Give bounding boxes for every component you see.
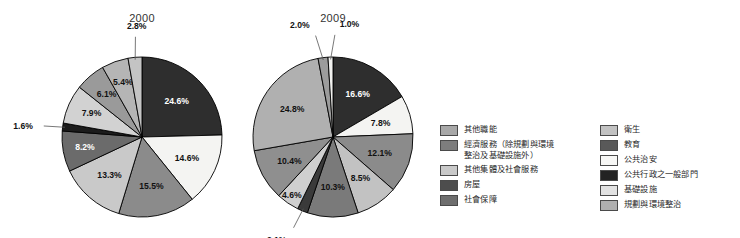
label-leader-line xyxy=(316,36,324,60)
legend-item-label: 教育 xyxy=(624,139,640,150)
legend-swatch-icon xyxy=(600,185,618,196)
legend-swatch-icon xyxy=(440,180,458,191)
legend-swatch-icon xyxy=(600,125,618,136)
pie-chart-2000: 24.6%14.6%15.5%13.3%8.2%1.6%7.9%6.1%5.4%… xyxy=(42,37,242,237)
legend-item[interactable]: 經濟服務（除規劃與環境 整治及基礎設施外） xyxy=(440,139,590,161)
legend-swatch-icon xyxy=(440,125,458,136)
legend-item-label: 基礎設施 xyxy=(624,184,657,195)
pie-slice-value-label: 14.6% xyxy=(175,153,200,163)
pie-slice-value-label: 6.1% xyxy=(97,89,117,99)
legend-swatch-icon xyxy=(600,140,618,151)
pie-slice-value-label: 24.8% xyxy=(280,104,305,114)
pie-slice-value-label: 15.5% xyxy=(139,181,164,191)
legend-item-label: 經濟服務（除規劃與環境 整治及基礎設施外） xyxy=(464,139,554,161)
pie-slice-value-label: 2.0% xyxy=(290,20,310,30)
legend-column-right: 衛生教育公共治安公共行政之一般部門基礎設施規劃與環境整治 xyxy=(600,124,736,228)
pie-slice-value-label: 5.4% xyxy=(113,77,133,87)
chart-legend: 其他職能經濟服務（除規劃與環境 整治及基礎設施外）其他集體及社會服務房屋社會保障… xyxy=(440,124,736,228)
legend-column-left: 其他職能經濟服務（除規劃與環境 整治及基礎設施外）其他集體及社會服務房屋社會保障 xyxy=(440,124,590,228)
legend-item-label: 其他集體及社會服務 xyxy=(464,164,538,175)
legend-swatch-icon xyxy=(440,140,458,151)
pie-slice-value-label: 16.6% xyxy=(345,89,370,99)
pie-slice-value-label: 24.6% xyxy=(164,96,189,106)
label-leader-line xyxy=(294,209,304,228)
legend-item-label: 房屋 xyxy=(464,179,480,190)
legend-item[interactable]: 公共行政之一般部門 xyxy=(600,169,736,181)
legend-item-label: 規劃與環境整治 xyxy=(624,199,681,210)
legend-item-label: 社會保障 xyxy=(464,194,497,205)
legend-swatch-icon xyxy=(600,200,618,211)
pie-slice-value-label: 1.6% xyxy=(13,121,33,131)
pie-slice-value-label: 10.4% xyxy=(277,156,302,166)
pie-slice-value-label: 1.0% xyxy=(340,19,360,29)
label-leader-line xyxy=(331,35,335,60)
pie-slice-value-label: 4.6% xyxy=(282,190,302,200)
pie-slice-value-label: 7.8% xyxy=(371,118,391,128)
legend-item-label: 衛生 xyxy=(624,124,640,135)
label-leader-line xyxy=(44,126,65,127)
legend-item[interactable]: 其他職能 xyxy=(440,124,590,136)
legend-item[interactable]: 規劃與環境整治 xyxy=(600,199,736,211)
pie-chart-figure: 2000 2009 24.6%14.6%15.5%13.3%8.2%1.6%7.… xyxy=(0,0,740,238)
legend-swatch-icon xyxy=(600,170,618,181)
legend-item[interactable]: 基礎設施 xyxy=(600,184,736,196)
legend-item-label: 公共治安 xyxy=(624,154,657,165)
pie-slice-value-label: 2.8% xyxy=(127,21,147,31)
pie-slice-value-label: 12.1% xyxy=(368,148,393,158)
pie-slice-value-label: 8.5% xyxy=(351,173,371,183)
legend-item[interactable]: 衛生 xyxy=(600,124,736,136)
legend-item[interactable]: 其他集體及社會服務 xyxy=(440,164,590,176)
pie-svg-2000: 24.6%14.6%15.5%13.3%8.2%1.6%7.9%6.1%5.4%… xyxy=(42,37,242,237)
pie-slice-value-label: 2.1% xyxy=(267,235,287,238)
pie-slice-value-label: 8.2% xyxy=(75,142,95,152)
legend-item-label: 公共行政之一般部門 xyxy=(624,169,698,180)
legend-item[interactable]: 社會保障 xyxy=(440,194,590,206)
legend-item[interactable]: 公共治安 xyxy=(600,154,736,166)
legend-item-label: 其他職能 xyxy=(464,124,497,135)
legend-swatch-icon xyxy=(440,195,458,206)
legend-swatch-icon xyxy=(600,155,618,166)
legend-item[interactable]: 教育 xyxy=(600,139,736,151)
pie-slice-value-label: 10.3% xyxy=(321,182,346,192)
legend-item[interactable]: 房屋 xyxy=(440,179,590,191)
pie-svg-2009: 16.6%7.8%12.1%8.5%10.3%2.1%4.6%10.4%24.8… xyxy=(233,37,433,237)
pie-slice-value-label: 7.9% xyxy=(82,108,102,118)
pie-slice-value-label: 13.3% xyxy=(97,170,122,180)
legend-swatch-icon xyxy=(440,165,458,176)
pie-chart-2009: 16.6%7.8%12.1%8.5%10.3%2.1%4.6%10.4%24.8… xyxy=(233,37,433,237)
